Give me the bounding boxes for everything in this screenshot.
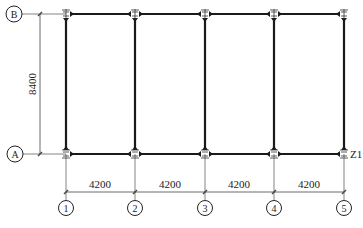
axis-bubble-a: A	[7, 146, 23, 162]
beams	[66, 14, 344, 154]
vertical-dimension	[38, 12, 42, 156]
column-tag-label: Z1	[350, 148, 362, 160]
span-dimension-label-1: 4200	[89, 178, 112, 190]
axis-bubble-b: B	[6, 6, 22, 22]
axis-label-2: 2	[133, 203, 138, 214]
span-dimension-label-3: 4200	[228, 178, 251, 190]
span-dimension-label-4: 4200	[298, 178, 321, 190]
structural-frame-drawing: 8400 4200 4200 4200 4200	[0, 0, 363, 228]
joint-b3	[201, 9, 209, 19]
axis-label-a: A	[11, 149, 19, 160]
span-dimension-label-2: 4200	[159, 178, 182, 190]
joint-b4	[270, 9, 278, 19]
axis-bubble-4: 4	[267, 201, 282, 216]
axis-bubble-3: 3	[198, 201, 213, 216]
axis-label-b: B	[11, 9, 18, 20]
axis-bubble-1: 1	[59, 201, 74, 216]
joint-b2	[131, 9, 139, 19]
axis-label-1: 1	[64, 203, 69, 214]
axis-bubble-2: 2	[128, 201, 143, 216]
axis-label-5: 5	[342, 203, 347, 214]
joint-b5	[340, 9, 348, 19]
axis-label-4: 4	[272, 203, 277, 214]
axis-label-3: 3	[203, 203, 208, 214]
vertical-dimension-label: 8400	[26, 73, 38, 96]
axis-lines	[22, 14, 344, 200]
axis-bubble-5: 5	[337, 201, 352, 216]
